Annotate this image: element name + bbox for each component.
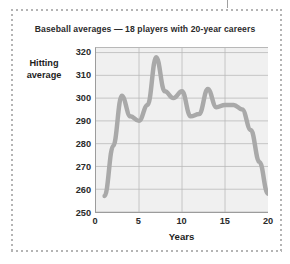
y-tick-label: 290 <box>63 116 91 126</box>
chart-title: Baseball averages — 18 players with 20-y… <box>0 24 290 34</box>
y-tick-label: 300 <box>63 93 91 103</box>
y-tick-label: 270 <box>63 162 91 172</box>
frame-top-edge <box>11 9 282 11</box>
top-tick-mark <box>227 0 228 8</box>
x-tick-label: 20 <box>263 216 273 226</box>
x-tick-label: 0 <box>92 216 97 226</box>
y-tick-label: 320 <box>63 47 91 57</box>
x-tick-label: 5 <box>136 216 141 226</box>
x-tick-label: 10 <box>176 216 186 226</box>
frame-bottom-edge <box>11 250 282 252</box>
y-tick-label: 250 <box>63 208 91 218</box>
x-tick-label: 15 <box>220 216 230 226</box>
plot-svg <box>96 48 268 212</box>
grid-lines <box>96 48 268 212</box>
data-series-line <box>105 57 268 196</box>
y-tick-label: 280 <box>63 139 91 149</box>
series-lines <box>105 57 268 196</box>
frame-right-edge <box>280 9 282 252</box>
y-tick-label: 260 <box>63 185 91 195</box>
plot-area <box>95 47 268 213</box>
figure-container: Baseball averages — 18 players with 20-y… <box>0 0 290 264</box>
x-tick-labels: 05101520 <box>95 216 268 230</box>
y-tick-labels: 250260270280290300310320 <box>61 47 91 213</box>
frame-left-edge <box>11 9 13 252</box>
y-tick-label: 310 <box>63 70 91 80</box>
x-axis-title: Years <box>95 231 268 242</box>
